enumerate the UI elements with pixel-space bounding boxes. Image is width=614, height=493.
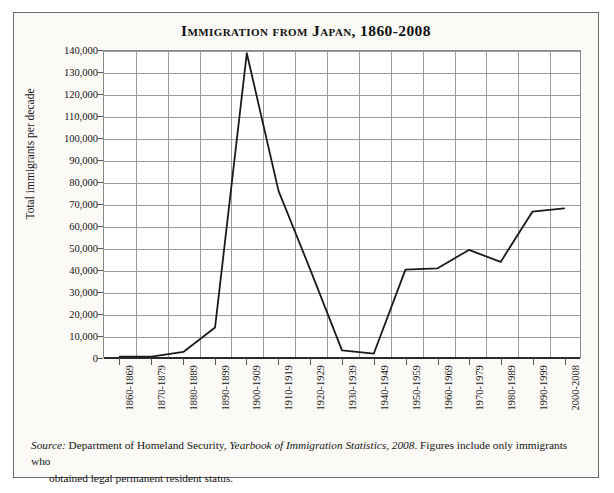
y-axis-tick-label: 130,000 bbox=[64, 67, 98, 78]
x-axis-tick-label: 1980-1989 bbox=[506, 365, 517, 441]
x-axis-tick-mark bbox=[501, 358, 502, 365]
x-axis-tick-label: 1870-1879 bbox=[156, 365, 167, 441]
y-axis-tick-label: 120,000 bbox=[64, 89, 98, 100]
x-axis-tick-mark bbox=[183, 358, 184, 365]
x-axis-tick-label: 1940-1949 bbox=[379, 365, 390, 441]
source-label: Source: bbox=[31, 439, 66, 451]
y-axis-tick-label: 30,000 bbox=[69, 287, 98, 298]
y-axis-tick-label: 60,000 bbox=[69, 221, 98, 232]
y-axis-tick-label: 100,000 bbox=[64, 133, 98, 144]
x-axis-tick-mark bbox=[119, 358, 120, 365]
x-axis-tick-label: 1920-1929 bbox=[315, 365, 326, 441]
x-axis-tick-mark bbox=[278, 358, 279, 365]
x-axis-tick-mark bbox=[246, 358, 247, 365]
x-axis-tick-mark bbox=[406, 358, 407, 365]
x-axis-tick-mark bbox=[310, 358, 311, 365]
y-axis-tick-label: 20,000 bbox=[69, 309, 98, 320]
x-axis-tick-mark bbox=[151, 358, 152, 365]
x-axis-tick-label: 1960-1969 bbox=[443, 365, 454, 441]
x-axis-tick-label: 1890-1899 bbox=[220, 365, 231, 441]
y-axis-tick-labels: 010,00020,00030,00040,00050,00060,00070,… bbox=[36, 50, 98, 358]
x-axis-tick-mark bbox=[215, 358, 216, 365]
x-axis-tick-mark bbox=[342, 358, 343, 365]
x-axis-tick-mark bbox=[438, 358, 439, 365]
y-axis-tick-label: 70,000 bbox=[69, 199, 98, 210]
x-axis-tick-label: 1950-1959 bbox=[411, 365, 422, 441]
x-axis-tick-mark bbox=[565, 358, 566, 365]
y-axis-tick-label: 140,000 bbox=[64, 45, 98, 56]
x-axis-tick-label: 1880-1889 bbox=[188, 365, 199, 441]
plot-wrapper bbox=[103, 50, 581, 358]
x-axis-tick-mark bbox=[533, 358, 534, 365]
x-axis-tick-mark bbox=[469, 358, 470, 365]
y-axis-tick-label: 80,000 bbox=[69, 177, 98, 188]
plot-area bbox=[103, 50, 581, 358]
x-axis-tick-label: 1910-1919 bbox=[283, 365, 294, 441]
figure-panel: Immigration from Japan, 1860-2008 Total … bbox=[13, 12, 599, 478]
y-axis-tick-label: 110,000 bbox=[64, 111, 98, 122]
source-text-before: Department of Homeland Security, bbox=[66, 439, 230, 451]
y-axis-tick-label: 50,000 bbox=[69, 243, 98, 254]
chart-title: Immigration from Japan, 1860-2008 bbox=[14, 22, 598, 40]
x-axis-tick-label: 1900-1909 bbox=[251, 365, 262, 441]
source-note: Source: Department of Homeland Security,… bbox=[31, 437, 584, 486]
source-publication: Yearbook of Immigration Statistics, 2008 bbox=[229, 439, 414, 451]
y-axis-title: Total immigrants per decade bbox=[24, 64, 36, 244]
x-axis-tick-marks bbox=[103, 358, 581, 365]
x-axis-tick-label: 1860-1869 bbox=[124, 365, 135, 441]
x-axis-tick-label: 1970-1979 bbox=[474, 365, 485, 441]
y-axis-tick-label: 10,000 bbox=[69, 331, 98, 342]
x-axis-tick-label: 1990-1999 bbox=[538, 365, 549, 441]
x-axis-tick-label: 1930-1939 bbox=[347, 365, 358, 441]
y-axis-tick-label: 90,000 bbox=[69, 155, 98, 166]
x-axis-tick-label: 2000-2008 bbox=[570, 365, 581, 441]
data-series-line bbox=[104, 51, 580, 357]
x-axis-tick-labels: 1860-18691870-18791880-18891890-18991900… bbox=[103, 365, 581, 441]
y-axis-tick-label: 40,000 bbox=[69, 265, 98, 276]
x-axis-tick-mark bbox=[374, 358, 375, 365]
source-note-line2: obtained legal permanent resident status… bbox=[31, 470, 584, 486]
